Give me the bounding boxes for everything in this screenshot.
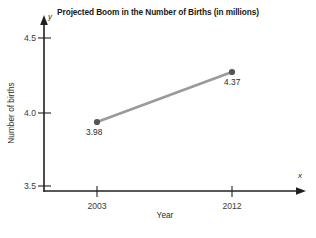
- data-point-marker: [229, 69, 235, 75]
- chart-title: Projected Boom in the Number of Births (…: [57, 8, 259, 16]
- y-axis-tick-label: 3.5: [24, 182, 36, 191]
- x-axis-tick-label: 2003: [87, 202, 106, 211]
- data-point-value-label: 3.98: [86, 128, 102, 136]
- x-axis-variable-label: x: [298, 172, 302, 180]
- chart-plot-area: [0, 0, 316, 238]
- y-axis-tick-label: 4.0: [24, 109, 36, 118]
- x-axis-arrowhead: [296, 187, 306, 195]
- y-axis-title: Number of births: [7, 82, 15, 143]
- y-axis-tick-label: 4.5: [24, 34, 36, 43]
- data-line-segment: [97, 72, 232, 122]
- chart-figure: Projected Boom in the Number of Births (…: [0, 0, 316, 238]
- y-axis-variable-label: y: [48, 13, 52, 21]
- x-axis-title: Year: [157, 211, 174, 219]
- data-point-value-label: 4.37: [224, 78, 240, 86]
- y-axis-arrowhead: [40, 15, 48, 25]
- data-point-marker: [94, 119, 100, 125]
- x-axis-tick-label: 2012: [222, 202, 241, 211]
